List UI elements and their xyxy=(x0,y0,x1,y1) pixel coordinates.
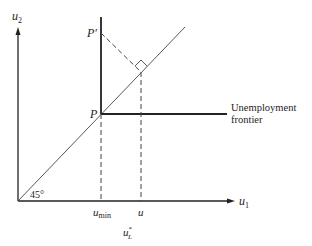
umin-tick-label: umin xyxy=(93,206,111,220)
frontier-label-line1: Unemployment xyxy=(231,102,296,113)
y-axis-label: u2 xyxy=(12,9,22,25)
right-angle-marker-icon xyxy=(135,60,147,66)
u-l-star-label: u*L xyxy=(123,225,133,241)
dashed-perpendicular-line xyxy=(101,33,141,72)
point-p-label: P xyxy=(89,107,98,121)
angle-label: 45° xyxy=(30,189,44,200)
frontier-label-line2: frontier xyxy=(231,114,263,125)
x-axis-label: u1 xyxy=(239,194,249,210)
u-tick-label: u xyxy=(138,206,144,218)
y-axis-arrow-icon xyxy=(16,27,21,35)
point-p-prime-label: P′ xyxy=(86,26,97,40)
x-axis-arrow-icon xyxy=(227,199,235,204)
diagram-canvas: u2 u1 P′ P 45° Unemployment frontier umi… xyxy=(0,0,312,246)
